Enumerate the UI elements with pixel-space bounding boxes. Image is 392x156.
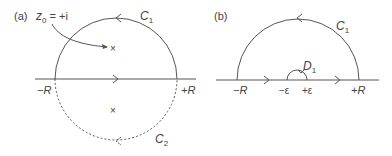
pointer-arrow <box>52 24 107 47</box>
d1-label: D1 <box>303 59 317 75</box>
minus-eps-label: −ε <box>279 85 290 96</box>
c2-label: C2 <box>155 132 169 148</box>
arrow-c1-b <box>297 14 302 22</box>
plus-r-label-a: +R <box>181 84 195 96</box>
minus-r-label-a: −R <box>37 84 51 96</box>
panel-b-tag: (b) <box>214 10 227 22</box>
contour-c2 <box>55 79 177 140</box>
panel-a-tag: (a) <box>14 10 27 22</box>
contour-c1-a <box>55 18 177 79</box>
c1-label-a: C1 <box>140 9 154 25</box>
pointer-arrowhead <box>102 44 108 49</box>
pole-lower-mark: × <box>110 105 116 116</box>
pole-label: z0 = +i <box>35 9 68 25</box>
panel-a <box>35 14 196 145</box>
contour-diagrams: (a) z0 = +i × × C1 C2 −R +R (b) C1 D1 −R… <box>0 0 392 156</box>
minus-r-label-b: −R <box>233 84 247 96</box>
pole-upper-mark: × <box>110 43 116 54</box>
arrow-c2 <box>116 137 121 145</box>
plus-r-label-b: +R <box>351 84 365 96</box>
c1-label-b: C1 <box>336 19 350 35</box>
plus-eps-label: +ε <box>302 85 313 96</box>
panel-b <box>216 14 379 84</box>
